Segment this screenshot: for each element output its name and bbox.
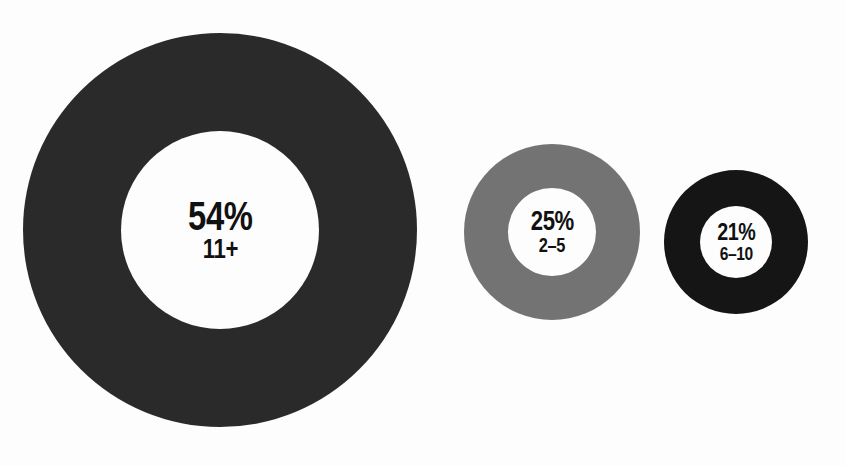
donut-category-label: 11+ [202, 236, 237, 263]
donut-chart-figure: 54% 11+ 25% 2–5 21% 6–10 [0, 0, 845, 466]
donut-category-label: 2–5 [539, 235, 565, 255]
donut-hole-11-plus: 54% 11+ [121, 131, 319, 329]
donut-percent-label: 21% [717, 221, 755, 244]
donut-slice-2-5: 25% 2–5 [464, 144, 640, 320]
donut-slice-11-plus: 54% 11+ [23, 33, 417, 427]
donut-slice-6-10: 21% 6–10 [664, 170, 808, 314]
donut-percent-label: 25% [530, 209, 573, 235]
donut-hole-6-10: 21% 6–10 [700, 206, 772, 278]
donut-hole-2-5: 25% 2–5 [508, 188, 596, 276]
donut-category-label: 6–10 [719, 244, 752, 263]
donut-percent-label: 54% [188, 197, 252, 235]
